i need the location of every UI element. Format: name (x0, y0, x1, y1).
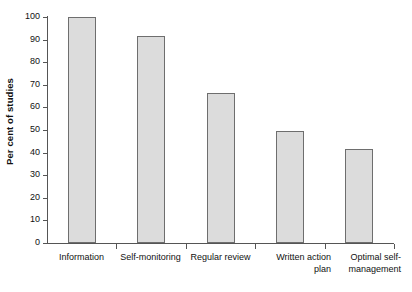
y-tick-label: 20 (30, 192, 40, 203)
x-tick-mark (116, 244, 117, 249)
bar (207, 93, 235, 243)
y-tick-label: 10 (30, 214, 40, 225)
y-tick-label: 0 (35, 237, 40, 248)
bar (276, 131, 304, 243)
y-tick: 50 (0, 130, 47, 131)
y-tick: 30 (0, 175, 47, 176)
y-tick-mark (43, 130, 47, 131)
y-tick-label: 90 (30, 34, 40, 45)
y-tick: 0 (0, 243, 47, 244)
x-tick-mark (186, 244, 187, 249)
x-axis-line (47, 243, 394, 244)
y-tick: 80 (0, 62, 47, 63)
x-tick-mark (394, 244, 395, 249)
y-tick-label: 50 (30, 124, 40, 135)
y-tick-label: 40 (30, 147, 40, 158)
x-tick-mark (255, 244, 256, 249)
y-axis-line (47, 16, 48, 244)
y-axis-title: Per cent of studies (0, 0, 18, 243)
y-tick-label: 30 (30, 169, 40, 180)
y-tick: 100 (0, 17, 47, 18)
y-tick-mark (43, 243, 47, 244)
y-tick-mark (43, 175, 47, 176)
y-tick-mark (43, 85, 47, 86)
x-tick-mark (325, 244, 326, 249)
y-tick-label: 60 (30, 101, 40, 112)
y-tick: 10 (0, 220, 47, 221)
y-tick: 40 (0, 153, 47, 154)
y-tick-mark (43, 107, 47, 108)
y-tick-mark (43, 62, 47, 63)
y-tick-mark (43, 17, 47, 18)
y-tick: 70 (0, 85, 47, 86)
y-tick-mark (43, 40, 47, 41)
y-tick-label: 100 (25, 11, 40, 22)
y-tick: 60 (0, 107, 47, 108)
y-tick-mark (43, 220, 47, 221)
y-tick: 90 (0, 40, 47, 41)
x-axis-label: Optimal self- management (318, 252, 401, 275)
bar (68, 17, 96, 243)
bar (137, 36, 165, 243)
y-tick-label: 70 (30, 79, 40, 90)
bar (345, 149, 373, 243)
y-tick-mark (43, 153, 47, 154)
bar-chart: Per cent of studies 01020304050607080901… (0, 0, 412, 292)
y-tick-label: 80 (30, 56, 40, 67)
y-tick: 20 (0, 198, 47, 199)
y-tick-mark (43, 198, 47, 199)
